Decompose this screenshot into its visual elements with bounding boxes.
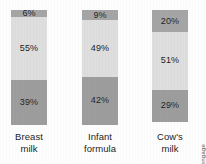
category-label-line2: milk: [2, 143, 56, 155]
segment-value-label: 42%: [91, 96, 109, 105]
stacked-bar-chart: 6% 55% 39% 9% 49% 42% 20% 51% 29%: [0, 0, 206, 164]
segment-value-label: 51%: [161, 56, 179, 65]
bar-infant-formula: 9% 49% 42%: [82, 10, 118, 125]
category-label-line1: Breast: [2, 131, 56, 143]
segment-value-label: 29%: [161, 101, 179, 110]
category-label-line1: Infant: [72, 131, 128, 143]
bar-segment-bottom: 39%: [11, 80, 47, 125]
copyright-credit: © Cengage: [200, 144, 206, 164]
bar-segment-top: 9%: [82, 10, 118, 20]
bar-breast-milk: 6% 55% 39%: [11, 10, 47, 125]
category-label-line2: milk: [143, 143, 197, 155]
bar-cows-milk: 20% 51% 29%: [152, 10, 188, 122]
bar-segment-top: 6%: [11, 10, 47, 17]
segment-value-label: 6%: [22, 10, 35, 17]
bar-segment-middle: 49%: [82, 20, 118, 76]
category-label-line1: Cow's: [143, 131, 197, 143]
segment-value-label: 49%: [91, 44, 109, 53]
bar-segment-top: 20%: [152, 10, 188, 32]
bar-segment-bottom: 29%: [152, 90, 188, 122]
category-label-breast-milk: Breast milk: [2, 131, 56, 154]
segment-value-label: 9%: [93, 11, 106, 20]
bar-segment-middle: 51%: [152, 32, 188, 89]
bar-segment-middle: 55%: [11, 17, 47, 80]
bar-segment-bottom: 42%: [82, 77, 118, 125]
category-label-line2: formula: [72, 143, 128, 155]
segment-value-label: 39%: [20, 98, 38, 107]
category-label-cows-milk: Cow's milk: [143, 131, 197, 154]
segment-value-label: 55%: [20, 44, 38, 53]
category-label-infant-formula: Infant formula: [72, 131, 128, 154]
segment-value-label: 20%: [161, 17, 179, 26]
